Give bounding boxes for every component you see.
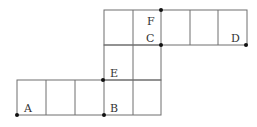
- point-e-label: E: [110, 67, 118, 80]
- point-d-label: D: [231, 32, 240, 45]
- point-d-dot: [244, 43, 248, 47]
- point-c-label: C: [146, 32, 154, 45]
- point-b-label: B: [110, 102, 118, 115]
- point-f-label: F: [147, 15, 155, 28]
- point-a-label: A: [23, 102, 33, 115]
- point-f-dot: [159, 8, 163, 12]
- top-row-grid: [104, 10, 247, 45]
- point-b-dot: [102, 113, 106, 117]
- bottom-row-outline: [17, 80, 161, 115]
- grid-diagram: A B E C F D: [0, 0, 257, 127]
- bottom-row-grid: [17, 80, 161, 115]
- point-e-dot: [101, 78, 105, 82]
- point-c-dot: [159, 43, 163, 47]
- point-labels: A B E C F D: [23, 15, 240, 115]
- top-row-outline: [104, 10, 247, 45]
- point-a-dot: [15, 113, 19, 117]
- point-markers: [15, 8, 248, 117]
